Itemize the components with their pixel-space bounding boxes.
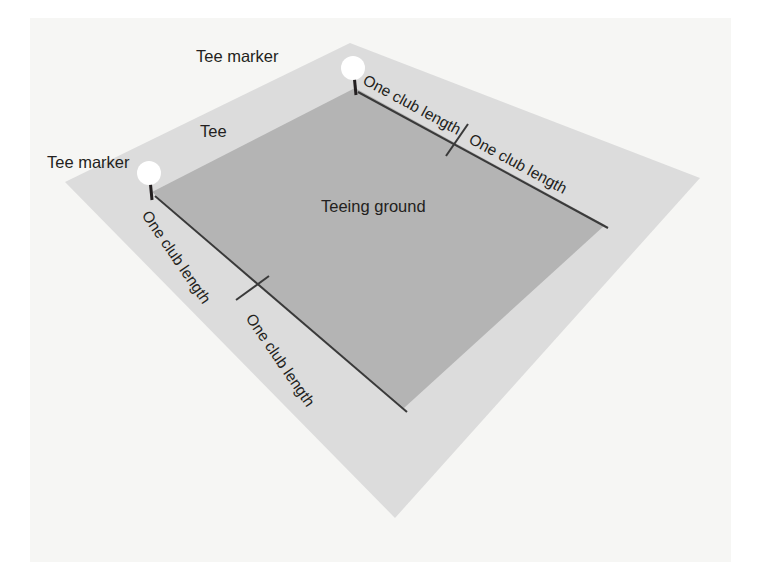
label-tee-marker-left: Tee marker <box>47 154 130 171</box>
label-tee: Tee <box>200 123 227 140</box>
label-tee-marker-top: Tee marker <box>196 48 279 65</box>
label-teeing-ground: Teeing ground <box>321 198 426 215</box>
tee-marker-ball-top <box>341 56 365 80</box>
tee-marker-ball-left <box>137 161 161 185</box>
teeing-ground-diagram: Tee marker Tee marker Tee Teeing ground … <box>0 0 761 580</box>
